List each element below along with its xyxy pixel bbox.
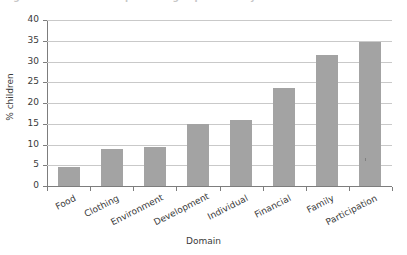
y-tick-mark (43, 20, 47, 21)
bar-chart: % children Domain 0510152025303540FoodCl… (0, 0, 407, 255)
bar[interactable] (359, 42, 381, 186)
y-tick-label: 15 (28, 119, 39, 128)
bar[interactable] (58, 167, 80, 186)
y-tick-mark (43, 82, 47, 83)
x-tick-mark (47, 187, 48, 191)
y-tick-label: 25 (28, 77, 39, 86)
x-axis-title: Domain (0, 236, 407, 246)
scan-speck (365, 158, 366, 161)
gridline (47, 20, 392, 21)
y-tick-mark (43, 165, 47, 166)
x-tick-mark (349, 187, 350, 191)
x-tick-mark (90, 187, 91, 191)
y-tick-label: 30 (28, 57, 39, 66)
bar[interactable] (273, 88, 295, 186)
y-tick-mark (43, 62, 47, 63)
gridline (47, 145, 392, 146)
gridline (47, 82, 392, 83)
x-tick-mark (263, 187, 264, 191)
plot-area (47, 20, 392, 186)
y-tick-label: 0 (33, 181, 39, 190)
x-tick-mark (306, 187, 307, 191)
gridline (47, 41, 392, 42)
gridline (47, 124, 392, 125)
gridline (47, 165, 392, 166)
x-tick-mark (133, 187, 134, 191)
bar[interactable] (101, 149, 123, 186)
y-tick-label: 20 (28, 98, 39, 107)
bar[interactable] (316, 55, 338, 186)
y-tick-label: 40 (28, 15, 39, 24)
x-tick-mark (392, 187, 393, 191)
y-tick-mark (43, 145, 47, 146)
y-tick-mark (43, 103, 47, 104)
bar[interactable] (230, 120, 252, 186)
y-tick-label: 10 (28, 140, 39, 149)
bar[interactable] (144, 147, 166, 186)
bar[interactable] (187, 124, 209, 186)
y-tick-label: 5 (33, 160, 39, 169)
gridline (47, 103, 392, 104)
x-tick-mark (220, 187, 221, 191)
y-tick-mark (43, 124, 47, 125)
gridline (47, 62, 392, 63)
y-tick-mark (43, 41, 47, 42)
y-axis-title: % children (5, 62, 15, 132)
y-tick-label: 35 (28, 36, 39, 45)
x-tick-mark (176, 187, 177, 191)
